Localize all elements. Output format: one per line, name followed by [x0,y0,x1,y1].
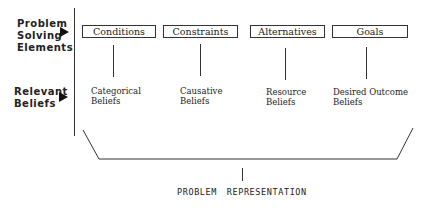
bracket-shape [0,0,423,208]
problem-representation-label: PROBLEM REPRESENTATION [177,187,307,197]
